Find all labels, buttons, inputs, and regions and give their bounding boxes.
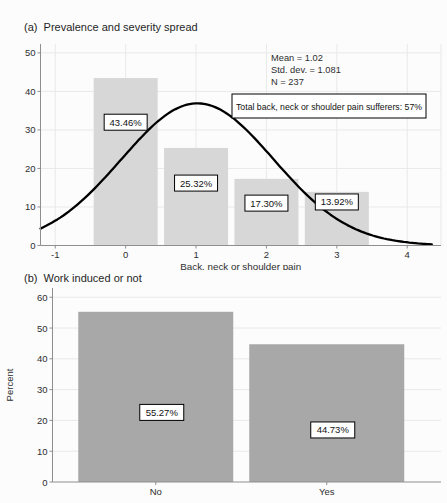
category-bar bbox=[249, 344, 404, 482]
stats-line: N = 237 bbox=[271, 77, 304, 87]
y-tick-label: 60 bbox=[37, 292, 48, 303]
y-tick-label: 30 bbox=[25, 124, 36, 135]
histogram-bar bbox=[234, 179, 298, 246]
x-tick-label: 0 bbox=[123, 249, 128, 260]
x-axis-title: Back, neck or shoulder pain bbox=[180, 261, 301, 271]
y-tick-label: 40 bbox=[37, 353, 48, 364]
y-tick-label: 0 bbox=[42, 477, 47, 488]
figure-canvas: (a) Prevalence and severity spread 01020… bbox=[0, 0, 447, 503]
chart-b-bar-chart: 0102030405060NoYesPercent55.27%44.73% bbox=[0, 270, 447, 503]
y-tick-label: 50 bbox=[25, 47, 36, 58]
y-tick-label: 50 bbox=[37, 323, 48, 334]
y-tick-label: 40 bbox=[25, 86, 36, 97]
y-tick-label: 20 bbox=[25, 163, 36, 174]
histogram-bar bbox=[164, 148, 228, 246]
annotation-text: Total back, neck or shoulder pain suffer… bbox=[236, 102, 422, 112]
y-tick-label: 0 bbox=[30, 240, 35, 251]
x-tick-label: 4 bbox=[405, 249, 410, 260]
x-tick-label: -1 bbox=[51, 249, 59, 260]
bar-label: 13.92% bbox=[321, 196, 354, 207]
y-tick-label: 10 bbox=[25, 201, 36, 212]
category-label: Yes bbox=[319, 486, 335, 497]
x-tick-label: 1 bbox=[193, 249, 198, 260]
y-tick-label: 30 bbox=[37, 384, 48, 395]
bar-label: 43.46% bbox=[110, 117, 143, 128]
chart-a-histogram: 01020304050-101234Back, neck or shoulder… bbox=[0, 0, 447, 270]
category-bar bbox=[78, 312, 233, 482]
bar-label: 17.30% bbox=[250, 198, 283, 209]
bar-label: 44.73% bbox=[317, 424, 350, 435]
bar-label: 55.27% bbox=[146, 407, 179, 418]
y-tick-label: 20 bbox=[37, 415, 48, 426]
y-axis-title: Percent bbox=[4, 368, 15, 401]
x-tick-label: 2 bbox=[264, 249, 269, 260]
x-tick-label: 3 bbox=[334, 249, 339, 260]
stats-line: Mean = 1.02 bbox=[271, 53, 323, 63]
y-tick-label: 10 bbox=[37, 446, 48, 457]
category-label: No bbox=[150, 486, 162, 497]
stats-line: Std. dev. = 1.081 bbox=[271, 65, 341, 75]
histogram-bar bbox=[94, 78, 158, 245]
bar-label: 25.32% bbox=[180, 178, 213, 189]
